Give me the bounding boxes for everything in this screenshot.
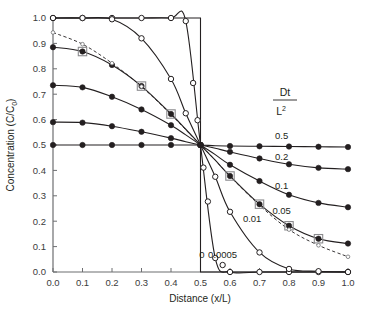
marker-filled-0.5 — [50, 142, 55, 147]
marker-tiny-open-analytic — [51, 31, 55, 35]
marker-open-0.01 — [227, 209, 232, 214]
legend-numerator: Dt — [280, 86, 291, 98]
y-tick-label: 0.5 — [33, 139, 46, 150]
y-tick-label: 0.9 — [33, 38, 46, 49]
y-tick-label: 1.0 — [33, 12, 46, 23]
x-tick-label: 0.3 — [135, 277, 148, 288]
marker-open-0.0005 — [201, 165, 206, 170]
marker-filled-0.05 — [50, 45, 55, 50]
x-tick-label: 0.5 — [194, 277, 207, 288]
marker-filled-0.5 — [345, 144, 350, 149]
marker-filled-0.1 — [286, 192, 291, 197]
y-tick-label: 0.4 — [33, 165, 46, 176]
marker-filled-0.1 — [50, 83, 55, 88]
x-tick-label: 0.9 — [312, 277, 325, 288]
marker-open-0.01 — [183, 111, 188, 116]
y-tick-label: 0.6 — [33, 114, 46, 125]
marker-open-0.01 — [168, 76, 173, 81]
marker-filled-0.2 — [139, 129, 144, 134]
marker-filled-0.1 — [227, 162, 232, 167]
marker-open-0.0005 — [190, 80, 195, 85]
marker-filled-0.2 — [50, 119, 55, 124]
curve-label-0.01: 0.01 — [243, 213, 262, 224]
marker-filled-0.5 — [227, 143, 232, 148]
marker-filled-0.5 — [168, 142, 173, 147]
marker-open-0.0005 — [139, 15, 144, 20]
marker-filled-0.1 — [139, 107, 144, 112]
x-tick-label: 0.0 — [46, 277, 59, 288]
marker-filled-0.1 — [345, 205, 350, 210]
marker-open-0.0005 — [205, 199, 210, 204]
marker-filled-0.2 — [168, 135, 173, 140]
curve-label-0.5: 0.5 — [275, 130, 288, 141]
marker-filled-0.05 — [227, 173, 232, 178]
marker-open-0.01 — [80, 15, 85, 20]
x-tick-label: 0.7 — [253, 277, 266, 288]
marker-open-0.0005 — [183, 18, 188, 23]
chart-svg: 0.00.10.20.30.40.50.60.70.80.91.0 0.00.1… — [0, 0, 369, 316]
marker-filled-0.5 — [316, 144, 321, 149]
marker-filled-0.1 — [80, 85, 85, 90]
marker-filled-0.05 — [316, 236, 321, 241]
x-tick-label: 0.2 — [105, 277, 118, 288]
marker-filled-0.2 — [316, 165, 321, 170]
marker-open-0.0005 — [257, 269, 262, 274]
x-tick-label: 0.6 — [223, 277, 236, 288]
marker-filled-0.5 — [286, 144, 291, 149]
curve-label-0.2: 0.2 — [275, 151, 288, 162]
marker-tiny-open-analytic — [81, 42, 85, 46]
y-tick-label: 0.8 — [33, 63, 46, 74]
marker-filled-0.05 — [345, 241, 350, 246]
marker-filled-0.1 — [109, 94, 114, 99]
marker-open-0.0005 — [195, 118, 200, 123]
marker-open-0.01 — [316, 269, 321, 274]
marker-filled-0.05 — [168, 111, 173, 116]
marker-filled-0.1 — [316, 200, 321, 205]
marker-open-0.0005 — [168, 15, 173, 20]
marker-open-0.01 — [345, 269, 350, 274]
curve-label-0: 0 — [199, 249, 204, 260]
marker-tiny-open-analytic — [110, 61, 114, 65]
x-axis-title: Distance (x/L) — [169, 293, 231, 304]
marker-filled-0.05 — [257, 201, 262, 206]
x-tick-label: 0.8 — [282, 277, 295, 288]
curve-label-0.05: 0.05 — [272, 205, 291, 216]
diffusion-concentration-chart: 0.00.10.20.30.40.50.60.70.80.91.0 0.00.1… — [0, 0, 369, 316]
x-tick-label: 1.0 — [341, 277, 354, 288]
marker-tiny-open-analytic — [346, 255, 350, 259]
marker-filled-0.5 — [198, 142, 203, 147]
y-tick-label: 0.3 — [33, 190, 46, 201]
marker-filled-0.2 — [345, 166, 350, 171]
marker-filled-0.2 — [286, 162, 291, 167]
marker-open-0.01 — [139, 36, 144, 41]
marker-tiny-open-analytic — [140, 85, 144, 89]
marker-filled-0.5 — [139, 142, 144, 147]
curve-label-0.0005: 0.0005 — [208, 249, 237, 260]
marker-open-0.0005 — [220, 262, 225, 267]
marker-filled-0.2 — [227, 149, 232, 154]
marker-open-0.01 — [50, 15, 55, 20]
y-tick-label: 0.0 — [33, 266, 46, 277]
marker-filled-0.1 — [168, 122, 173, 127]
x-tick-label: 0.1 — [76, 277, 89, 288]
marker-open-0.01 — [286, 266, 291, 271]
marker-tiny-open-analytic — [287, 228, 291, 232]
marker-open-0.0005 — [227, 269, 232, 274]
marker-filled-0.5 — [257, 144, 262, 149]
curve-label-0.1: 0.1 — [275, 180, 288, 191]
y-tick-label: 0.7 — [33, 89, 46, 100]
y-tick-label: 0.2 — [33, 216, 46, 227]
marker-open-0.01 — [257, 250, 262, 255]
marker-tiny-open-analytic — [317, 244, 321, 248]
marker-open-0.01 — [213, 174, 218, 179]
marker-filled-0.2 — [80, 120, 85, 125]
marker-filled-0.5 — [109, 142, 114, 147]
marker-open-0.01 — [109, 17, 114, 22]
marker-filled-0.5 — [80, 142, 85, 147]
marker-filled-0.05 — [80, 49, 85, 54]
x-tick-label: 0.4 — [164, 277, 177, 288]
marker-filled-0.2 — [109, 124, 114, 129]
y-tick-label: 0.1 — [33, 241, 46, 252]
marker-filled-0.1 — [257, 178, 262, 183]
marker-filled-0.2 — [257, 156, 262, 161]
